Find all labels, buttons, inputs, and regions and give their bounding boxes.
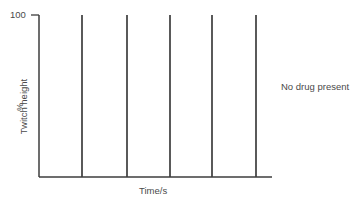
x-axis-title: Time/s — [139, 186, 167, 196]
chart-plot-area — [0, 0, 350, 206]
y-axis-tick-label-100: 100 — [10, 10, 26, 20]
twitch-height-chart: 100 Twitch height % Time/s No drug prese… — [0, 0, 350, 206]
annotation-no-drug-present: No drug present — [281, 82, 349, 92]
y-axis-unit-label: % — [15, 96, 25, 118]
y-axis-label-group: Twitch height % — [6, 56, 36, 162]
